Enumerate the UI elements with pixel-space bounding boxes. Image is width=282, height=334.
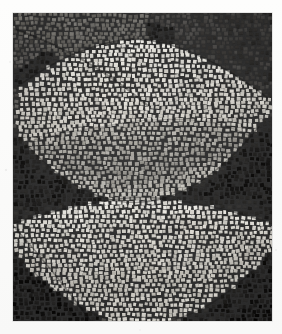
mosaic-tesserae-canvas [13, 13, 272, 321]
mosaic-photograph [13, 13, 272, 321]
screenshot-root: Black and white photograph of a Roman mo… [0, 0, 282, 334]
